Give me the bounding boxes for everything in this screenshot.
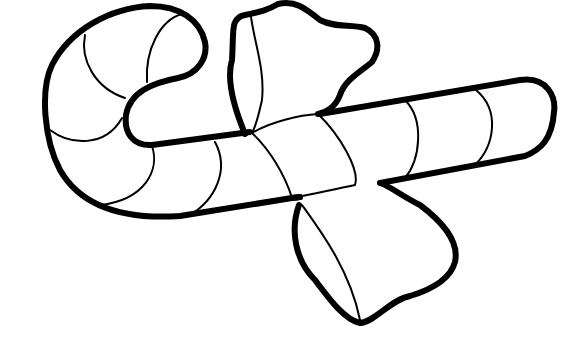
stripe	[475, 90, 492, 165]
bow-knot	[252, 114, 356, 198]
stripe	[147, 14, 182, 82]
candy-cane-shaft-top	[320, 80, 554, 183]
stripe	[50, 118, 122, 141]
stripe	[100, 146, 154, 205]
bow-loop-top-fold	[251, 17, 263, 133]
candy-cane-outline	[45, 6, 300, 217]
stripe	[84, 35, 125, 98]
stripe	[405, 100, 418, 178]
stripe	[190, 142, 221, 215]
coloring-page	[0, 0, 584, 347]
bow-loop-bottom	[295, 183, 456, 323]
candy-cane-drawing	[0, 0, 584, 347]
